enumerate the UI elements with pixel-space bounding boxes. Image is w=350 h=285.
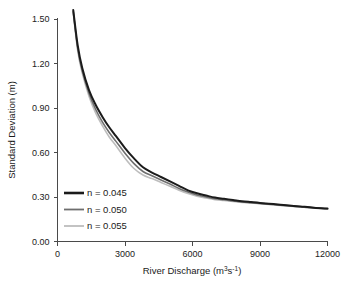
y-axis-title: Standard Deviation (m) [6, 81, 17, 179]
series-line-n-0-050 [73, 12, 327, 209]
legend-label-1: n = 0.050 [87, 204, 127, 215]
x-axis-title-base: River Discharge (m [143, 265, 224, 276]
chart-series-group [73, 10, 327, 209]
y-tick-label: 0.30 [32, 192, 50, 202]
y-tick-label: 0.90 [32, 103, 50, 113]
y-tick-label: 0.60 [32, 148, 50, 158]
legend-label-0: n = 0.045 [87, 187, 127, 198]
x-axis-title: River Discharge (m3s-1) [143, 265, 242, 277]
x-tick-label: 9000 [250, 249, 270, 259]
y-tick-label: 1.50 [32, 14, 50, 24]
x-tick-label: 3000 [115, 249, 135, 259]
series-line-n-0-055 [73, 12, 327, 209]
x-tick-label: 0 [55, 249, 60, 259]
x-axis-ticks: 030006000900012000 [55, 242, 340, 259]
x-tick-label: 6000 [182, 249, 202, 259]
chart-legend: n = 0.045n = 0.050n = 0.055 [64, 187, 127, 231]
svg-text:River Discharge (m3s-1): River Discharge (m3s-1) [143, 265, 242, 277]
legend-label-2: n = 0.055 [87, 220, 127, 231]
line-chart: 0.000.300.600.901.201.50 030006000900012… [0, 0, 350, 285]
series-line-n-0-045 [73, 10, 327, 208]
chart-figure: 0.000.300.600.901.201.50 030006000900012… [0, 0, 350, 285]
y-tick-label: 1.20 [32, 59, 50, 69]
y-axis-ticks: 0.000.300.600.901.201.50 [32, 14, 58, 247]
x-tick-label: 12000 [315, 249, 340, 259]
y-tick-label: 0.00 [32, 237, 50, 247]
x-axis-title-close: ) [238, 265, 241, 276]
